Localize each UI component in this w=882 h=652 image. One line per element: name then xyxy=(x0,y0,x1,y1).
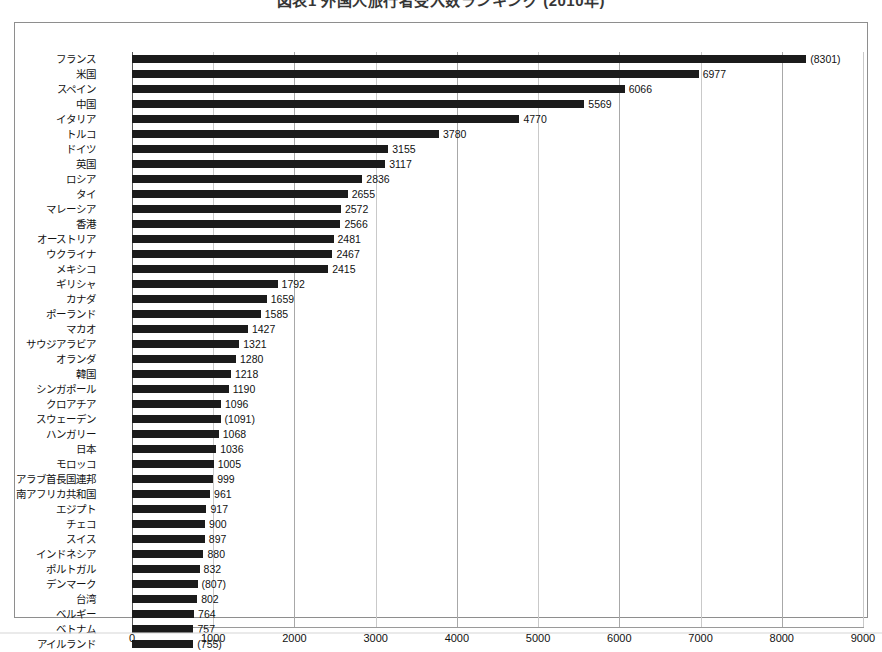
bar-row: ウクライナ2467 xyxy=(15,247,867,262)
bar-value-label: 4770 xyxy=(523,112,546,127)
bar xyxy=(132,70,699,78)
bar xyxy=(132,130,439,138)
category-label: 香港 xyxy=(0,217,96,232)
bar-row: サウジアラビア1321 xyxy=(15,337,867,352)
bar-row: ポルトガル832 xyxy=(15,562,867,577)
bar-row: カナダ1659 xyxy=(15,292,867,307)
category-label: トルコ xyxy=(0,127,96,142)
bar xyxy=(132,580,198,588)
bar-row: スペイン6066 xyxy=(15,82,867,97)
category-label: クロアチア xyxy=(0,397,96,412)
category-label: モロッコ xyxy=(0,457,96,472)
bar-row: ハンガリー1068 xyxy=(15,427,867,442)
category-label: アラブ首長国連邦 xyxy=(0,472,96,487)
category-label: シンガポール xyxy=(0,382,96,397)
bar-value-label: 3117 xyxy=(389,157,412,172)
bar xyxy=(132,265,328,273)
bar xyxy=(132,145,388,153)
bar-row: エジプト917 xyxy=(15,502,867,517)
category-label: ベルギー xyxy=(0,607,96,622)
bar xyxy=(132,595,197,603)
bar xyxy=(132,85,625,93)
bar xyxy=(132,115,519,123)
category-label: ウクライナ xyxy=(0,247,96,262)
category-label: イタリア xyxy=(0,112,96,127)
bar-row: 台湾802 xyxy=(15,592,867,607)
bar-row: 中国5569 xyxy=(15,97,867,112)
category-label: 中国 xyxy=(0,97,96,112)
bar xyxy=(132,295,267,303)
chart-frame: フランス(8301)米国6977スペイン6066中国5569イタリア4770トル… xyxy=(14,22,868,618)
bar-value-label: 2481 xyxy=(338,232,361,247)
bar xyxy=(132,430,219,438)
bar xyxy=(132,415,221,423)
category-label: アイルランド xyxy=(0,637,96,652)
bar xyxy=(132,445,216,453)
category-label: ポーランド xyxy=(0,307,96,322)
bar-row: 香港2566 xyxy=(15,217,867,232)
bar-value-label: 1036 xyxy=(220,442,243,457)
bar xyxy=(132,385,229,393)
bar xyxy=(132,400,221,408)
bar-row: マカオ1427 xyxy=(15,322,867,337)
chart-title: 図表1 外国人旅行者受入数ランキング (2010年) xyxy=(0,0,882,10)
category-label: 米国 xyxy=(0,67,96,82)
bar-row: 日本1036 xyxy=(15,442,867,457)
category-label: デンマーク xyxy=(0,577,96,592)
category-label: ポルトガル xyxy=(0,562,96,577)
bar-value-label: 2655 xyxy=(352,187,375,202)
bar-value-label: 3780 xyxy=(443,127,466,142)
bar-value-label: 2415 xyxy=(332,262,355,277)
bar xyxy=(132,190,348,198)
category-label: ギリシャ xyxy=(0,277,96,292)
bar-row: トルコ3780 xyxy=(15,127,867,142)
bar-row: スイス897 xyxy=(15,532,867,547)
category-label: メキシコ xyxy=(0,262,96,277)
bar-row: ドイツ3155 xyxy=(15,142,867,157)
bar-row: オーストリア2481 xyxy=(15,232,867,247)
bar xyxy=(132,205,341,213)
bar-value-label: 6066 xyxy=(629,82,652,97)
bar-value-label: 1280 xyxy=(240,352,263,367)
bar-value-label: 3155 xyxy=(392,142,415,157)
category-label: 英国 xyxy=(0,157,96,172)
bar-row: スウェーデン(1091) xyxy=(15,412,867,427)
bar xyxy=(132,340,239,348)
category-label: マレーシア xyxy=(0,202,96,217)
bar-value-label: 961 xyxy=(214,487,232,502)
category-label: ハンガリー xyxy=(0,427,96,442)
chart-title-strip: 図表1 外国人旅行者受入数ランキング (2010年) xyxy=(0,0,882,14)
bar xyxy=(132,535,205,543)
category-label: ロシア xyxy=(0,172,96,187)
bar-row: フランス(8301) xyxy=(15,52,867,67)
bar-value-label: 1585 xyxy=(265,307,288,322)
bar-row: アラブ首長国連邦999 xyxy=(15,472,867,487)
category-label: チェコ xyxy=(0,517,96,532)
bar-row: タイ2655 xyxy=(15,187,867,202)
bar-value-label: 1190 xyxy=(233,382,256,397)
bar-row: 韓国1218 xyxy=(15,367,867,382)
bar-row: ポーランド1585 xyxy=(15,307,867,322)
bar-value-label: 764 xyxy=(198,607,216,622)
bar xyxy=(132,475,213,483)
bar xyxy=(132,175,362,183)
category-label: 南アフリカ共和国 xyxy=(0,487,96,502)
bar-value-label: 5569 xyxy=(588,97,611,112)
bar-value-label: 1321 xyxy=(243,337,266,352)
category-label: オランダ xyxy=(0,352,96,367)
category-label: スウェーデン xyxy=(0,412,96,427)
bar xyxy=(132,160,385,168)
bar-value-label: 2566 xyxy=(344,217,367,232)
bar-value-label: 2467 xyxy=(336,247,359,262)
bar-row: オランダ1280 xyxy=(15,352,867,367)
bar-value-label: 1792 xyxy=(282,277,305,292)
bar xyxy=(132,550,203,558)
category-label: 日本 xyxy=(0,442,96,457)
bar-value-label: 999 xyxy=(217,472,235,487)
bar-value-label: 2836 xyxy=(366,172,389,187)
bar-row: モロッコ1005 xyxy=(15,457,867,472)
bar-row: 南アフリカ共和国961 xyxy=(15,487,867,502)
bar-row: インドネシア880 xyxy=(15,547,867,562)
category-label: フランス xyxy=(0,52,96,67)
category-label: オーストリア xyxy=(0,232,96,247)
